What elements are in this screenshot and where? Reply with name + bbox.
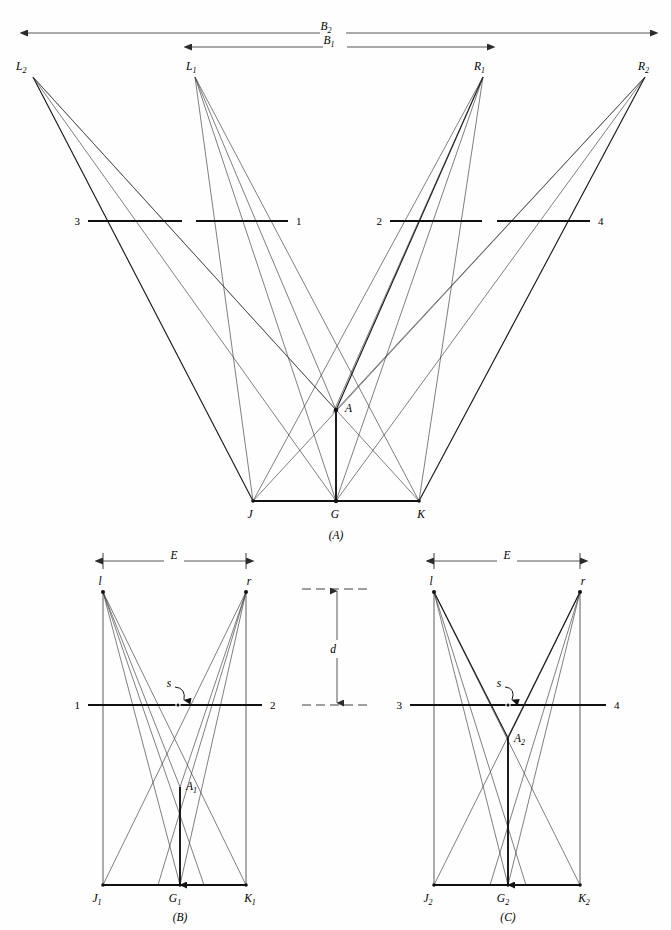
ray-r1-k (419, 77, 483, 501)
panel-c-reference-label-right: 4 (614, 699, 620, 711)
panel-b-node-r (244, 590, 248, 594)
ray-r2-a (336, 77, 645, 410)
panel-b-caption: (B) (173, 911, 188, 924)
ray-r2-g (336, 77, 645, 501)
panel-c-ray-r-mid (490, 592, 580, 885)
panel-b-ray-l-mid (103, 592, 204, 885)
ground-label-k: K (416, 508, 426, 520)
panel-c-ground-label-g2: G2 (497, 892, 509, 907)
ray-r1-a2 (333, 77, 483, 413)
panel-c-caption: (C) (500, 911, 516, 924)
panel-b-reference-label-right: 2 (270, 699, 276, 711)
ray-l1-g (195, 77, 336, 501)
ray-l1-j (195, 77, 253, 501)
panel-b-node-l (101, 590, 105, 594)
panel-b-ray-r-a1 (180, 592, 246, 787)
panel-c-parallax-label-s: s (497, 677, 502, 689)
panel-b-ground-label-k1: K1 (243, 892, 256, 907)
panel-c-node-g2 (506, 883, 510, 887)
panel-c-dimension-label-e: E (502, 549, 510, 561)
panel-a-reference-lines: 3 1 2 4 (75, 215, 605, 227)
node-a (334, 408, 338, 412)
panel-b-ray-l-g1 (103, 592, 180, 885)
panel-a-station-labels: L2 L1 R1 R2 (15, 60, 649, 75)
panel-b-node-j1 (101, 883, 105, 887)
panel-b-parallax-point (176, 703, 179, 706)
panel-c-ray-l-mid (434, 592, 526, 885)
panel-c-reference-label-left: 3 (397, 699, 403, 711)
panel-b: E 1 2 s (75, 549, 276, 924)
panel-c-node-j2 (432, 883, 436, 887)
panel-b-ray-r-mid (158, 592, 246, 885)
panel-c-ray-l-g2 (434, 592, 508, 885)
reference-label-3: 3 (75, 215, 81, 227)
ray-bundle-l2 (33, 77, 419, 501)
panel-c-apex-label-a2: A2 (513, 732, 525, 747)
panel-b-node-g1 (178, 883, 182, 887)
panel-c-ground-label-k2: K2 (577, 892, 590, 907)
panel-c-parallax-point (506, 703, 509, 706)
node-g (334, 499, 338, 503)
apex-label-a: A (344, 402, 353, 414)
ray-r1-g (336, 77, 483, 501)
panel-b-ray-l-a1 (103, 592, 180, 787)
station-label-r2: R2 (637, 60, 649, 75)
panel-b-parallax-label-s: s (167, 677, 172, 689)
ray-l2-g (33, 77, 336, 501)
station-label-l2: L2 (15, 60, 26, 75)
panel-c: E 3 4 s (397, 549, 621, 924)
panel-c-node-l (432, 590, 436, 594)
panel-c-ray-l-a2 (434, 592, 508, 738)
panel-b-dimension-label-e: E (169, 549, 177, 561)
center-dimension-label-d: d (330, 643, 336, 655)
figure-root: B2 B1 (0, 0, 671, 930)
station-label-l1: L1 (185, 60, 196, 75)
station-label-r1: R1 (473, 60, 485, 75)
ray-l1-a (195, 77, 336, 410)
reference-label-2: 2 (377, 215, 383, 227)
center-dimension-d: d (302, 589, 372, 705)
ray-l2-j (33, 77, 253, 501)
panel-c-parallax-callout-arrow (505, 687, 513, 700)
ground-label-g: G (331, 508, 340, 520)
figure-diagram: B2 B1 (0, 0, 671, 930)
panel-a-caption: (A) (329, 529, 344, 542)
ground-label-j: J (247, 508, 253, 520)
panel-b-ground-label-j1: J1 (92, 892, 101, 907)
panel-b-label-r: r (247, 575, 252, 587)
panel-c-ray-r-a2 (508, 592, 580, 738)
node-k (417, 499, 421, 503)
panel-b-apex-label-a1: A1 (185, 780, 197, 795)
panel-b-node-k1 (244, 883, 248, 887)
ray-r2-k (419, 77, 645, 501)
panel-c-ground-label-j2: J2 (423, 892, 432, 907)
ray-bundle-r2 (253, 77, 645, 501)
panel-b-ground-label-g1: G1 (169, 892, 181, 907)
panel-c-node-r (578, 590, 582, 594)
panel-b-reference-label-left: 1 (75, 699, 81, 711)
panel-a-dimensions: B2 B1 (28, 20, 650, 54)
node-j (251, 499, 255, 503)
panel-b-parallax-callout-arrow (175, 687, 184, 700)
ray-bundle-l1 (195, 77, 419, 501)
ray-l2-a (33, 77, 336, 410)
reference-label-4: 4 (598, 215, 604, 227)
reference-label-1: 1 (296, 215, 302, 227)
panel-a-structure (251, 408, 421, 503)
panel-c-label-r: r (581, 575, 586, 587)
ray-l1-k (195, 77, 419, 501)
panel-b-ray-r-g1 (180, 592, 246, 885)
panel-c-label-l: l (429, 575, 432, 587)
panel-b-label-l: l (98, 575, 101, 587)
panel-c-node-k2 (578, 883, 582, 887)
